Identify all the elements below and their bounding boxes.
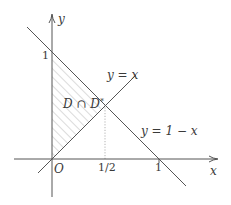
label-y-equals-one-minus-x: y = 1 − x [140,124,198,138]
origin-label: O [54,162,64,176]
y-axis-label: y [57,12,65,26]
tick-label-x-one: 1 [155,161,162,174]
region-label: D ∩ D* [62,97,104,111]
region-label-superscript: * [100,97,104,106]
tick-label-y-one: 1 [42,49,49,62]
region-label-main: D ∩ D [62,97,100,111]
label-y-equals-x: y = x [106,68,138,82]
region-diagram: y x O 1 1/2 1 y = x y = 1 − x D ∩ D* [0,0,231,205]
x-axis [14,156,218,162]
x-axis-label: x [210,164,217,178]
tick-label-x-half: 1/2 [98,161,116,174]
